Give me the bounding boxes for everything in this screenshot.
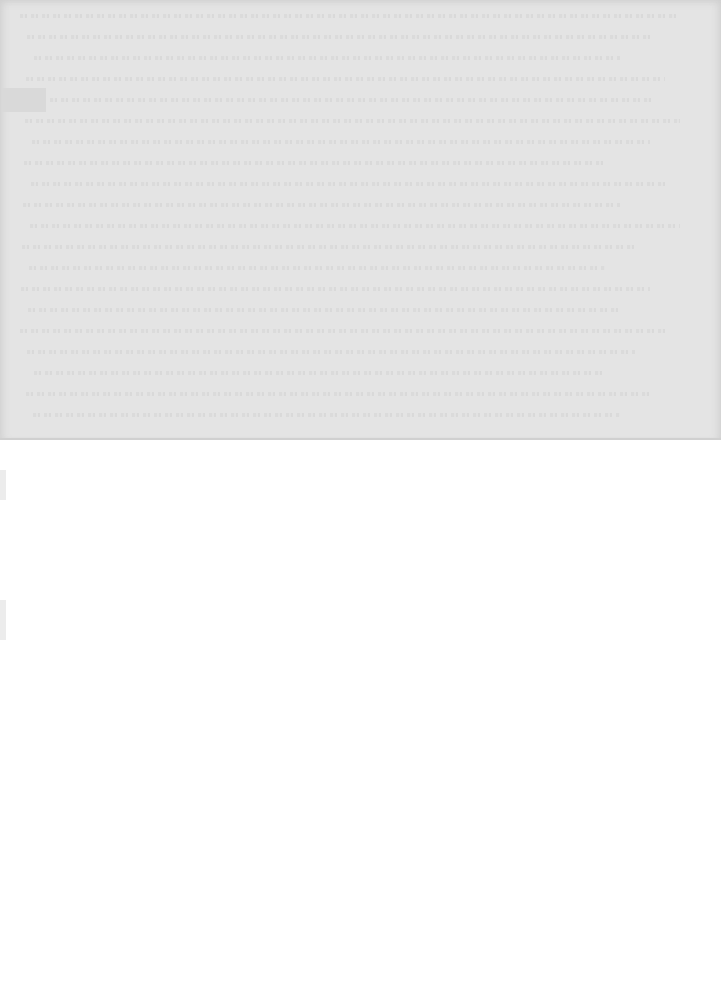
text-line <box>27 35 650 39</box>
text-line <box>26 77 665 81</box>
page-edge-divider <box>0 438 721 440</box>
text-line <box>22 245 635 249</box>
scanned-text-region <box>0 0 721 440</box>
margin-shadow <box>0 600 6 640</box>
text-line <box>27 350 635 354</box>
text-line <box>33 413 620 417</box>
text-line <box>20 14 680 18</box>
text-line <box>24 161 605 165</box>
text-line <box>34 371 605 375</box>
blank-page-area <box>0 441 721 992</box>
margin-box <box>2 88 46 112</box>
text-line <box>29 266 605 270</box>
text-line <box>21 287 650 291</box>
text-line <box>28 308 620 312</box>
margin-shadow <box>0 470 6 500</box>
text-line <box>50 98 652 102</box>
text-line <box>20 329 665 333</box>
text-line <box>26 392 650 396</box>
text-line <box>31 182 665 186</box>
text-line <box>34 56 620 60</box>
text-line <box>23 203 620 207</box>
text-line <box>30 224 680 228</box>
text-line <box>25 119 680 123</box>
text-line <box>32 140 650 144</box>
